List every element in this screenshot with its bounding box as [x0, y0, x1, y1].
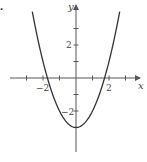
y-tick-label-neg2: −2 — [61, 107, 74, 117]
y-tick-label-2: 2 — [66, 40, 72, 50]
x-tick-label-neg2: −2 — [36, 83, 49, 93]
y-axis-label: y — [67, 1, 74, 12]
parabola-chart: x y −2 2 2 −2 — [0, 0, 147, 162]
axes — [10, 5, 140, 152]
x-axis-label: x — [138, 80, 144, 91]
x-tick-label-2: 2 — [106, 83, 112, 93]
